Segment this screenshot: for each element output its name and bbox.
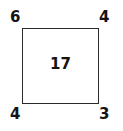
corner-label-top-right: 4 xyxy=(99,10,109,25)
corner-label-top-left: 6 xyxy=(10,10,20,25)
square-center-value: 17 xyxy=(22,57,99,72)
square-diagram: 6 4 4 3 17 xyxy=(0,0,123,131)
corner-label-bottom-left: 4 xyxy=(10,107,20,122)
corner-label-bottom-right: 3 xyxy=(99,107,109,122)
